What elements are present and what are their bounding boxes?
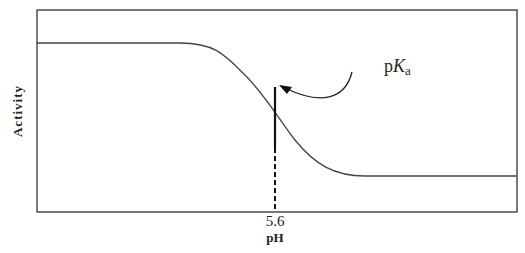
x-tick-label: 5.6 (259, 213, 291, 230)
arrowhead-icon (279, 85, 292, 94)
annotation-arrow (285, 72, 352, 98)
activity-curve (37, 43, 517, 176)
annot-p: p (384, 56, 393, 76)
x-axis-label: pH (259, 230, 291, 246)
plot-frame (37, 10, 517, 212)
y-axis-label: Activity (10, 81, 26, 141)
annot-a: a (405, 63, 411, 78)
pka-annotation: pKa (384, 56, 411, 79)
annot-k: K (393, 56, 405, 76)
